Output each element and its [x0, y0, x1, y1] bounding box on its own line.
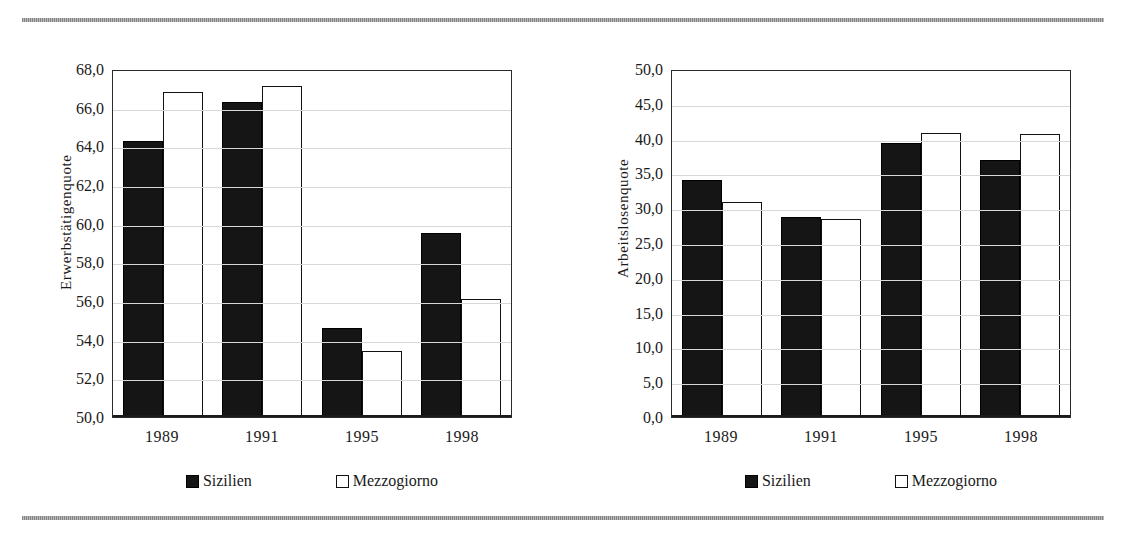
bar-group — [113, 71, 213, 417]
bar-group — [971, 71, 1071, 417]
gridline — [113, 380, 511, 381]
bar-mezzogiorno-1991[interactable] — [821, 219, 861, 417]
legend-item-mezzogiorno[interactable]: Mezzogiorno — [895, 472, 997, 490]
y-axis-tick-label: 58,0 — [76, 255, 104, 271]
y-axis-tick-label: 20,0 — [635, 271, 663, 287]
y-axis-tick-label: 54,0 — [76, 333, 104, 349]
filled-square-icon — [186, 475, 199, 488]
y-axis-tick-label: 52,0 — [76, 371, 104, 387]
y-axis-tick-label: 60,0 — [76, 217, 104, 233]
y-axis-title: Erwerbstätigenquote — [58, 154, 75, 290]
x-axis-tick-label: 1989 — [671, 428, 771, 446]
charts-container: Erwerbstätigenquote 68,066,064,062,060,0… — [0, 40, 1126, 508]
y-axis-tick-label: 50,0 — [76, 410, 104, 426]
gridline — [113, 226, 511, 227]
bar-mezzogiorno-1991[interactable] — [262, 86, 302, 417]
legend-item-mezzogiorno[interactable]: Mezzogiorno — [336, 472, 438, 490]
legend-item-sizilien[interactable]: Sizilien — [186, 472, 252, 490]
gridline — [113, 264, 511, 265]
y-axis-tick-label: 56,0 — [76, 294, 104, 310]
y-axis-tick-label: 15,0 — [635, 306, 663, 322]
gridline — [672, 106, 1070, 107]
bar-mezzogiorno-1995[interactable] — [362, 351, 402, 417]
y-axis-tick-label: 0,0 — [643, 410, 663, 426]
y-axis-tick-label: 66,0 — [76, 101, 104, 117]
filled-square-icon — [745, 475, 758, 488]
y-axis-tick-label: 5,0 — [643, 375, 663, 391]
bar-sizilien-1998[interactable] — [980, 160, 1020, 417]
x-axis-tick-labels: 1989199119951998 — [671, 428, 1071, 446]
chart-panel-erwerbstaetigenquote: Erwerbstätigenquote 68,066,064,062,060,0… — [0, 40, 563, 508]
y-axis-tick-label: 30,0 — [635, 201, 663, 217]
x-axis-tick-label: 1995 — [871, 428, 971, 446]
bar-group — [871, 71, 971, 417]
top-divider-rule — [22, 18, 1104, 22]
bar-group — [772, 71, 872, 417]
y-axis-tick-label: 62,0 — [76, 178, 104, 194]
y-axis-tick-label: 25,0 — [635, 236, 663, 252]
x-axis-line — [113, 415, 511, 417]
gridline — [672, 384, 1070, 385]
legend-label: Sizilien — [203, 472, 252, 490]
bar-mezzogiorno-1998[interactable] — [1020, 134, 1060, 417]
y-axis-tick-label: 10,0 — [635, 340, 663, 356]
chart-legend: SizilienMezzogiorno — [671, 472, 1071, 490]
legend-label: Mezzogiorno — [353, 472, 438, 490]
gridline — [672, 315, 1070, 316]
y-axis-tick-label: 40,0 — [635, 132, 663, 148]
gridline — [672, 280, 1070, 281]
y-axis-title: Arbeitslosenquote — [615, 159, 632, 278]
legend-label: Mezzogiorno — [912, 472, 997, 490]
bar-sizilien-1989[interactable] — [123, 141, 163, 417]
gridline — [672, 175, 1070, 176]
y-axis-tick-label: 64,0 — [76, 139, 104, 155]
x-axis-tick-label: 1998 — [412, 428, 512, 446]
gridline — [672, 141, 1070, 142]
x-axis-tick-label: 1998 — [971, 428, 1071, 446]
bar-group — [672, 71, 772, 417]
gridline — [113, 110, 511, 111]
gridline — [113, 303, 511, 304]
bar-sizilien-1998[interactable] — [421, 233, 461, 417]
legend-item-sizilien[interactable]: Sizilien — [745, 472, 811, 490]
plot-area — [112, 70, 512, 418]
x-axis-line — [672, 415, 1070, 417]
chart-panel-arbeitslosenquote: Arbeitslosenquote 50,045,040,035,030,025… — [563, 40, 1126, 508]
bar-group — [213, 71, 313, 417]
plot-area — [671, 70, 1071, 418]
hollow-square-icon — [895, 475, 908, 488]
y-axis-tick-label: 45,0 — [635, 97, 663, 113]
chart-legend: SizilienMezzogiorno — [112, 472, 512, 490]
gridline — [113, 342, 511, 343]
bar-sizilien-1991[interactable] — [781, 217, 821, 417]
x-axis-tick-label: 1991 — [771, 428, 871, 446]
bottom-divider-rule — [22, 516, 1104, 520]
bar-group — [412, 71, 512, 417]
x-axis-tick-label: 1995 — [312, 428, 412, 446]
bar-sizilien-1989[interactable] — [682, 180, 722, 417]
y-axis-tick-label: 68,0 — [76, 62, 104, 78]
x-axis-tick-label: 1989 — [112, 428, 212, 446]
gridline — [113, 148, 511, 149]
gridline — [113, 187, 511, 188]
bar-mezzogiorno-1989[interactable] — [163, 92, 203, 417]
y-axis-tick-label: 50,0 — [635, 62, 663, 78]
gridline — [672, 349, 1070, 350]
bar-group — [312, 71, 412, 417]
y-axis-tick-label: 35,0 — [635, 166, 663, 182]
hollow-square-icon — [336, 475, 349, 488]
x-axis-tick-label: 1991 — [212, 428, 312, 446]
bar-mezzogiorno-1998[interactable] — [461, 299, 501, 417]
x-axis-tick-labels: 1989199119951998 — [112, 428, 512, 446]
gridline — [672, 245, 1070, 246]
gridline — [672, 210, 1070, 211]
legend-label: Sizilien — [762, 472, 811, 490]
